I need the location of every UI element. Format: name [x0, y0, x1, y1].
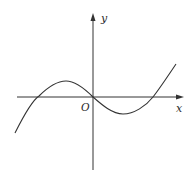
- function-graph: y x O: [0, 0, 194, 182]
- x-axis-label: x: [176, 102, 183, 115]
- cubic-curve: [15, 64, 176, 133]
- y-axis-label: y: [100, 12, 108, 25]
- origin-label: O: [81, 101, 90, 113]
- y-axis-arrow-icon: [91, 13, 96, 21]
- graph-canvas: y x O: [0, 0, 194, 182]
- x-axis-arrow-icon: [176, 95, 184, 100]
